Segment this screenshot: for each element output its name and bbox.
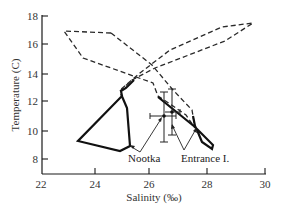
y-tick-label: 14 — [27, 68, 39, 80]
arrowhead-icon — [158, 117, 162, 122]
x-axis-title: Salinity (‰) — [126, 191, 182, 204]
entrance-dashed-curve — [120, 23, 253, 91]
y-tick-label: 8 — [33, 153, 39, 165]
nootka-dashed-curve-upper — [111, 33, 195, 128]
nootka-mean-point — [162, 114, 166, 118]
nootka-arrow — [130, 119, 161, 152]
axes: 18 16 14 12 10 8 22 24 26 28 30 Salinity… — [9, 10, 271, 204]
entrance-solid-curve — [158, 97, 213, 149]
solid-curves — [78, 80, 213, 151]
y-tick-label: 12 — [27, 95, 38, 107]
y-tick-label: 10 — [27, 125, 39, 137]
y-tick-label: 18 — [27, 10, 39, 22]
x-tick-label: 26 — [144, 178, 156, 190]
entrance-arrow — [172, 125, 196, 150]
entrance-mean-point — [170, 110, 174, 114]
nootka-solid-curve — [78, 80, 134, 151]
x-tick-label: 24 — [90, 178, 102, 190]
y-tick-label: 16 — [27, 38, 39, 50]
nootka-dashed-curve — [64, 31, 195, 128]
error-bars — [150, 89, 180, 142]
x-tick-label: 28 — [202, 178, 214, 190]
x-tick-label: 30 — [260, 178, 272, 190]
nootka-label: Nootka — [128, 152, 161, 164]
ts-diagram-chart: 18 16 14 12 10 8 22 24 26 28 30 Salinity… — [0, 0, 283, 209]
dashed-curves — [64, 23, 253, 128]
y-axis-title: Temperature (C) — [9, 58, 22, 131]
x-tick-label: 22 — [36, 178, 47, 190]
entrance-label: Entrance I. — [181, 152, 229, 164]
